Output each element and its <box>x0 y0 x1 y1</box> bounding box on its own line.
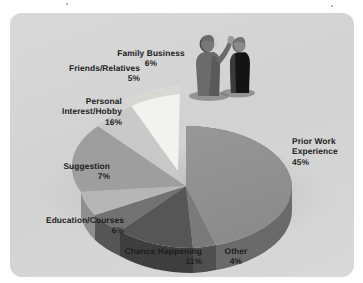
label-other-value: 4% <box>212 256 260 267</box>
label-personal-interest: Personal Interest/Hobby 16% <box>18 85 122 138</box>
label-suggestion-name: Suggestion <box>63 161 110 171</box>
label-other-name: Other <box>225 246 248 256</box>
label-prior-work-name: Prior Work Experience <box>292 136 338 157</box>
label-personal-interest-name: Personal Interest/Hobby <box>62 96 122 117</box>
label-suggestion-value: 7% <box>16 171 110 182</box>
label-chance-happening-value: 11% <box>98 256 202 267</box>
label-education-courses-name: Education/Courses <box>46 215 124 225</box>
label-other: Other 4% <box>212 235 260 277</box>
label-prior-work-value: 45% <box>292 157 360 168</box>
pie-chart-figure: Family Business 6% Friends/Relatives 5% … <box>0 0 363 283</box>
label-friends-relatives-name: Friends/Relatives <box>69 63 140 73</box>
label-chance-happening-name: Chance Happening <box>125 246 202 256</box>
chart-stage: Family Business 6% Friends/Relatives 5% … <box>0 0 363 283</box>
label-personal-interest-value: 16% <box>18 117 122 128</box>
label-friends-relatives-value: 5% <box>36 73 140 84</box>
label-suggestion: Suggestion 7% <box>16 150 110 192</box>
listening-figure <box>230 35 251 93</box>
label-chance-happening: Chance Happening 11% <box>98 235 202 277</box>
two-business-figures-illustration <box>189 34 255 102</box>
gesturing-figure <box>196 34 234 97</box>
label-prior-work: Prior Work Experience 45% <box>292 125 360 178</box>
